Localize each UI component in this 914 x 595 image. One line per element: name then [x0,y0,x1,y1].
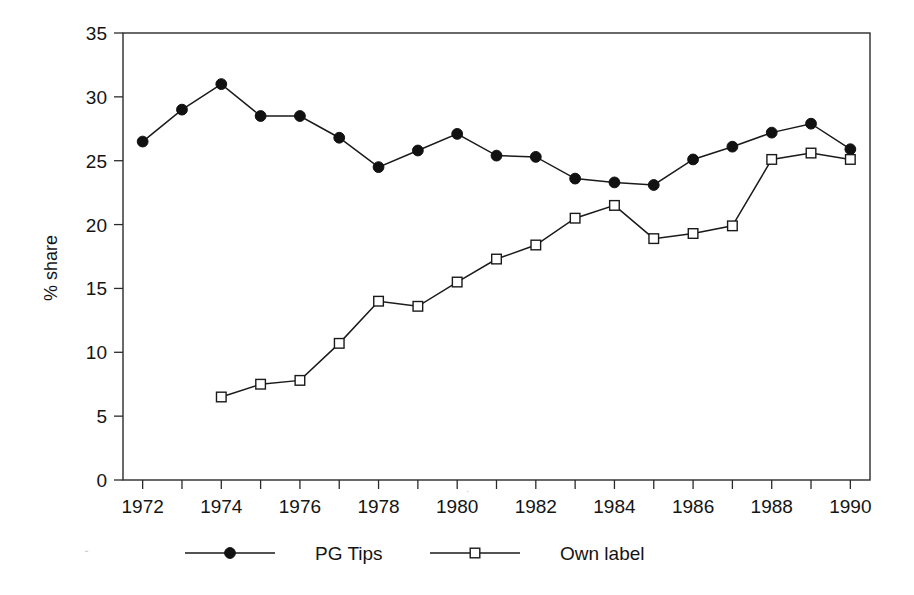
data-point [806,118,817,129]
data-point [530,151,541,162]
data-point [295,111,306,122]
data-point [609,177,620,188]
data-point [491,150,502,161]
data-point [806,148,816,158]
y-tick-label: 10 [86,342,107,363]
y-tick-label: 5 [96,406,107,427]
data-point [137,136,148,147]
data-point [216,79,227,90]
data-point [688,229,698,239]
x-axis-ticks [143,480,851,489]
data-point [334,132,345,143]
chart-figure: 05101520253035 1972197419761978198019821… [0,0,914,595]
y-tick-label: 20 [86,215,107,236]
data-point [845,144,856,155]
y-tick-label: 35 [86,23,107,44]
data-point [570,213,580,223]
x-tick-label: 1984 [593,496,636,517]
x-tick-label: 1986 [672,496,714,517]
y-axis-title: % share [41,235,61,301]
scan-artifact-axis: · [466,486,469,497]
data-point [374,296,384,306]
x-tick-label: 1978 [357,496,399,517]
data-point [334,339,344,349]
data-point [649,234,659,244]
legend-label: Own label [560,543,645,564]
data-point [531,240,541,250]
data-point [295,376,305,386]
y-axis-ticks [114,33,123,480]
data-point [177,104,188,115]
data-point [846,155,856,165]
series-layer [137,79,855,402]
x-axis-tick-labels: 1972197419761978198019821984198619881990 [122,496,872,517]
data-point [413,302,423,312]
x-tick-label: 1990 [829,496,871,517]
data-point [727,141,738,152]
data-point [452,277,462,287]
data-point [373,162,384,173]
y-tick-label: 0 [96,470,107,491]
x-tick-label: 1972 [122,496,164,517]
data-point [767,155,777,165]
data-point [256,379,266,389]
data-point [452,128,463,139]
data-point [688,154,699,165]
legend-marker-open-square-icon [470,548,480,558]
x-tick-label: 1980 [436,496,478,517]
data-point [766,127,777,138]
data-point [255,111,266,122]
data-point [570,173,581,184]
data-point [412,145,423,156]
y-tick-label: 30 [86,87,107,108]
x-tick-label: 1974 [200,496,243,517]
data-point [648,180,659,191]
scan-artifact-left: ⁃ [84,546,89,557]
y-axis-title-text: % share [41,235,61,301]
x-tick-label: 1982 [515,496,557,517]
series-own-label [216,148,855,402]
legend-marker-filled-circle-icon [225,548,236,559]
chart-legend: PG TipsOwn label [185,543,645,564]
data-point [216,392,226,402]
legend-entry-pg-tips[interactable]: PG Tips [185,543,383,564]
data-point [610,201,620,211]
series-line [143,84,851,185]
y-axis-tick-labels: 05101520253035 [86,23,107,491]
y-tick-label: 25 [86,151,107,172]
data-point [728,221,738,231]
legend-label: PG Tips [315,543,383,564]
series-pg-tips [137,79,855,191]
x-tick-label: 1976 [279,496,321,517]
line-chart: 05101520253035 1972197419761978198019821… [0,0,914,595]
data-point [492,254,502,264]
series-line [221,153,850,397]
x-tick-label: 1988 [751,496,793,517]
y-tick-label: 15 [86,278,107,299]
legend-entry-own-label[interactable]: Own label [430,543,645,564]
